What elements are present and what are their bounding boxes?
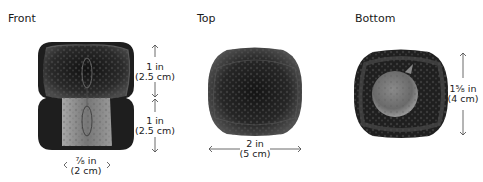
front-lower-cm: (2.5 cm)	[134, 126, 176, 136]
front-view-title: Front	[8, 12, 36, 25]
top-pompom-image	[207, 48, 303, 136]
front-width-dimension: ⅞ in (2 cm)	[66, 156, 106, 176]
bottom-pompom-image	[353, 50, 449, 138]
bottom-view-title: Bottom	[355, 12, 395, 25]
bottom-height-cm: (4 cm)	[441, 94, 483, 104]
front-upper-dimension: 1 in (2.5 cm)	[134, 62, 176, 82]
front-upper-cm: (2.5 cm)	[134, 72, 176, 82]
front-lower-dimension: 1 in (2.5 cm)	[134, 116, 176, 136]
bottom-height-dimension: 1⅝ in (4 cm)	[441, 84, 483, 104]
front-pompom-image	[38, 42, 134, 150]
top-width-dimension: 2 in (5 cm)	[235, 139, 275, 159]
top-view-title: Top	[197, 12, 216, 25]
front-width-cm: (2 cm)	[66, 166, 106, 176]
top-width-cm: (5 cm)	[235, 149, 275, 159]
